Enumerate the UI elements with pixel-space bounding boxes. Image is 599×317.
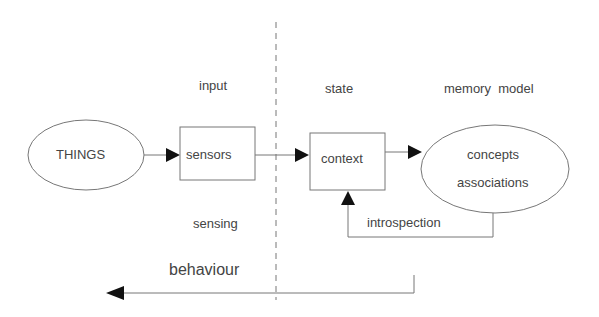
arrowhead-icon xyxy=(341,191,355,205)
sensing-label: sensing xyxy=(193,216,238,231)
state-label: state xyxy=(325,81,353,96)
arrowhead-icon xyxy=(166,148,180,162)
memory-model-label: memory model xyxy=(444,81,534,96)
sensors-text: sensors xyxy=(186,147,232,162)
concepts-text: concepts xyxy=(467,147,519,162)
behaviour-label: behaviour xyxy=(169,261,239,279)
input-label: input xyxy=(199,78,227,93)
context-text: context xyxy=(321,151,363,166)
arrowhead-icon xyxy=(295,148,309,162)
arrowhead-icon xyxy=(408,145,422,159)
arrowhead-icon xyxy=(106,286,124,300)
memory-node xyxy=(421,125,569,213)
associations-text: associations xyxy=(457,175,529,190)
things-text: THINGS xyxy=(56,147,105,162)
introspection-label: introspection xyxy=(367,215,441,230)
